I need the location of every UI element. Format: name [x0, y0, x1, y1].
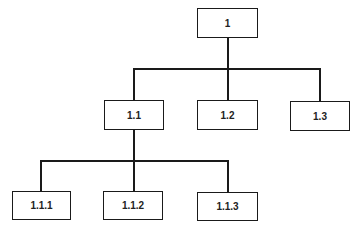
hierarchy-diagram: 1 1.1 1.2 1.3 1.1.1 1.1.2 1.1.3	[0, 0, 360, 230]
node-label: 1.1.2	[122, 200, 144, 211]
node-1-1-2: 1.1.2	[103, 191, 163, 220]
connector-to-1-1-1	[40, 160, 42, 191]
node-1-3: 1.3	[290, 101, 350, 131]
node-1-2: 1.2	[197, 100, 258, 130]
node-1: 1	[197, 8, 258, 38]
node-1-1-1: 1.1.1	[12, 191, 71, 220]
node-label: 1.1.3	[216, 201, 238, 212]
connector-1-1-down	[133, 130, 135, 161]
node-label: 1.1	[127, 110, 141, 121]
connector-root-down	[227, 38, 229, 69]
node-label: 1.2	[221, 110, 235, 121]
connector-to-1-1-2	[133, 160, 135, 191]
node-1-1-3: 1.1.3	[197, 192, 258, 221]
connector-to-1-3	[319, 68, 321, 101]
connector-to-1-2	[227, 68, 229, 100]
node-label: 1.3	[313, 111, 327, 122]
connector-to-1-1-3	[227, 160, 229, 192]
node-1-1: 1.1	[104, 100, 164, 130]
node-label: 1	[225, 18, 231, 29]
node-label: 1.1.1	[30, 200, 52, 211]
connector-to-1-1	[133, 68, 135, 100]
